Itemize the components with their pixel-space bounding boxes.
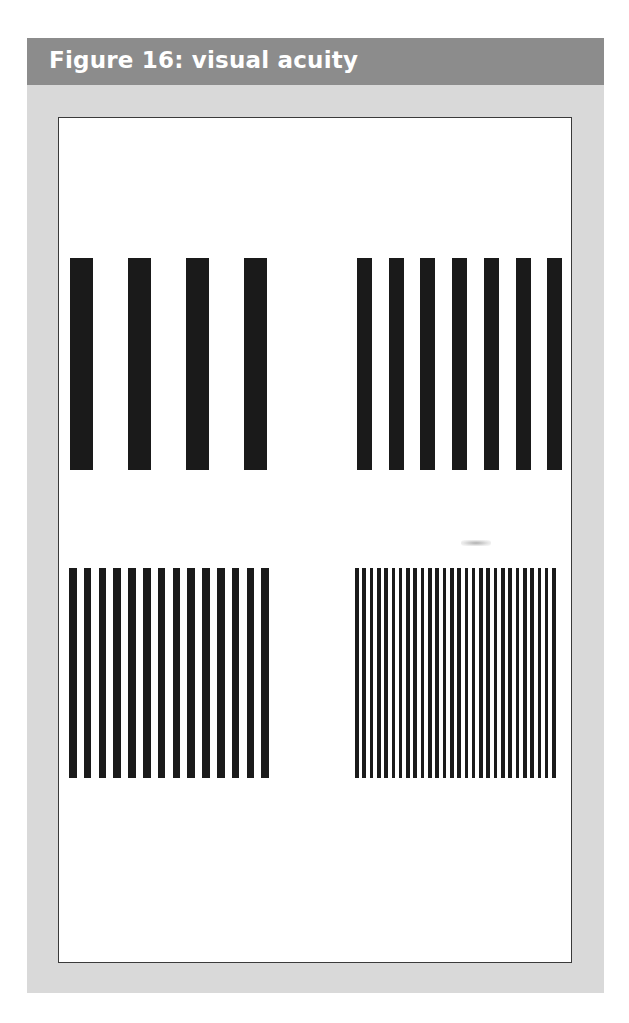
grating-bar bbox=[128, 568, 136, 778]
grating-bar bbox=[370, 568, 374, 778]
grating-bar bbox=[486, 568, 490, 778]
figure-canvas bbox=[58, 117, 572, 963]
grating-bar bbox=[545, 568, 549, 778]
figure-panel: Figure 16: visual acuity bbox=[27, 38, 604, 993]
grating-bar bbox=[84, 568, 92, 778]
grating-bar bbox=[377, 568, 381, 778]
grating-bar bbox=[384, 568, 388, 778]
grating-bar bbox=[187, 568, 195, 778]
grating-bar bbox=[484, 258, 499, 470]
grating-bar bbox=[538, 568, 542, 778]
grating-bar bbox=[173, 568, 181, 778]
smudge-mark bbox=[461, 540, 491, 546]
grating-bar bbox=[158, 568, 166, 778]
grating-bar bbox=[247, 568, 255, 778]
grating-bar bbox=[457, 568, 461, 778]
grating-bar bbox=[420, 258, 435, 470]
figure-header: Figure 16: visual acuity bbox=[27, 38, 604, 85]
grating-bar bbox=[452, 258, 467, 470]
grating-bar bbox=[392, 568, 396, 778]
grating-bar bbox=[357, 258, 372, 470]
fine-grating bbox=[69, 568, 269, 778]
grating-bar bbox=[421, 568, 425, 778]
grating-bar bbox=[217, 568, 225, 778]
grating-bar bbox=[479, 568, 483, 778]
grating-bar bbox=[508, 568, 512, 778]
grating-bar bbox=[70, 258, 93, 470]
grating-bar bbox=[406, 568, 410, 778]
grating-bar bbox=[494, 568, 498, 778]
grating-bar bbox=[186, 258, 209, 470]
grating-bar bbox=[202, 568, 210, 778]
grating-bar bbox=[552, 568, 556, 778]
grating-bar bbox=[472, 568, 476, 778]
grating-bar bbox=[501, 568, 505, 778]
grating-bar bbox=[530, 568, 534, 778]
medium-grating bbox=[357, 258, 562, 470]
grating-bar bbox=[399, 568, 403, 778]
grating-bar bbox=[435, 568, 439, 778]
grating-bar bbox=[128, 258, 151, 470]
grating-bar bbox=[244, 258, 267, 470]
grating-bar bbox=[547, 258, 562, 470]
grating-bar bbox=[428, 568, 432, 778]
figure-title: Figure 16: visual acuity bbox=[49, 47, 358, 73]
grating-bar bbox=[113, 568, 121, 778]
grating-bar bbox=[465, 568, 469, 778]
grating-bar bbox=[355, 568, 359, 778]
grating-bar bbox=[413, 568, 417, 778]
grating-bar bbox=[69, 568, 77, 778]
grating-bar bbox=[443, 568, 447, 778]
grating-bar bbox=[516, 258, 531, 470]
grating-bar bbox=[232, 568, 240, 778]
grating-bar bbox=[450, 568, 454, 778]
grating-bar bbox=[261, 568, 269, 778]
grating-bar bbox=[99, 568, 107, 778]
coarse-grating bbox=[70, 258, 267, 470]
grating-bar bbox=[143, 568, 151, 778]
very-fine-grating bbox=[355, 568, 556, 778]
grating-bar bbox=[362, 568, 366, 778]
grating-bar bbox=[389, 258, 404, 470]
grating-bar bbox=[523, 568, 527, 778]
grating-bar bbox=[516, 568, 520, 778]
